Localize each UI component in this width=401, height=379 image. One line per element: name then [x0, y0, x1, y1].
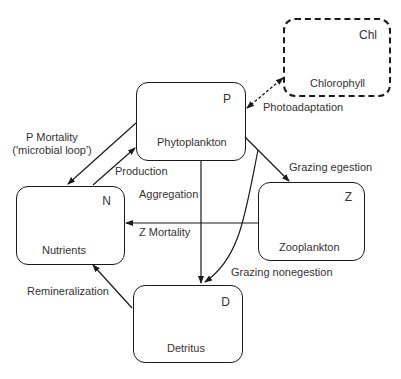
node-symbol: Chl	[359, 28, 377, 42]
node-name: Chlorophyll	[310, 77, 365, 89]
node-chlorophyll: Chl Chlorophyll	[283, 18, 391, 97]
node-name: Phytoplankton	[157, 136, 227, 148]
label-aggregation: Aggregation	[139, 188, 198, 201]
label-p-mortality-main: P Mortality	[12, 131, 92, 144]
label-production: Production	[115, 165, 168, 178]
label-p-mortality-sub: ('microbial loop')	[12, 144, 92, 157]
label-grazing-nonegestion: Grazing nonegestion	[231, 266, 333, 279]
label-p-mortality: P Mortality ('microbial loop')	[12, 131, 92, 157]
node-symbol: P	[223, 92, 231, 106]
label-grazing-egestion: Grazing egestion	[289, 161, 372, 174]
node-symbol: D	[221, 295, 230, 309]
node-symbol: Z	[345, 190, 352, 204]
node-name: Detritus	[167, 342, 205, 354]
label-photoadaptation: Photoadaptation	[263, 101, 343, 114]
node-zooplankton: Z Zooplankton	[258, 182, 365, 261]
arrow-grazing-egestion	[245, 137, 289, 181]
node-phytoplankton: P Phytoplankton	[136, 82, 246, 161]
label-remineralization: Remineralization	[27, 285, 109, 298]
node-symbol: N	[102, 194, 111, 208]
node-detritus: D Detritus	[133, 285, 243, 363]
node-name: Zooplankton	[279, 241, 340, 253]
arrow-grazing-nonegestion	[205, 150, 258, 282]
label-z-mortality: Z Mortality	[139, 226, 190, 239]
node-nutrients: N Nutrients	[16, 186, 125, 265]
node-name: Nutrients	[42, 244, 86, 256]
